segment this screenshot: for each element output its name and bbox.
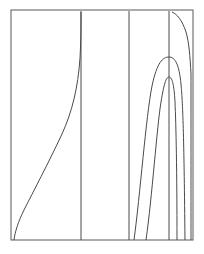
plot-canvas [0, 0, 204, 254]
inner-arc [146, 77, 177, 240]
rising-curve-left [14, 12, 81, 240]
series-group [14, 11, 191, 240]
plot-container [0, 0, 204, 254]
plot-frame [11, 10, 193, 240]
right-descending-curve [172, 12, 191, 240]
